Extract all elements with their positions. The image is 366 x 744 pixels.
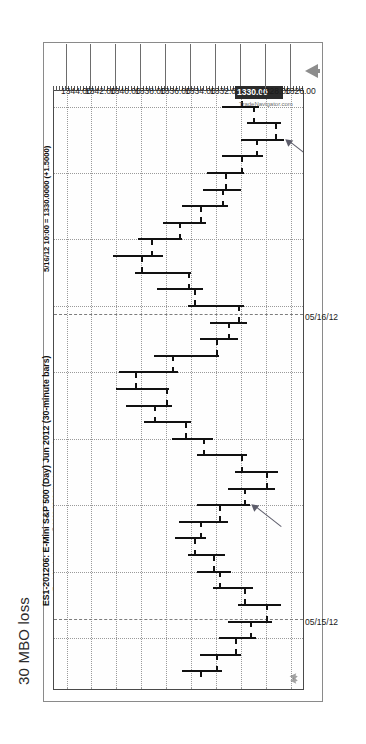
watermark: TradeNavigator.com xyxy=(239,101,293,107)
bar-close-tick xyxy=(244,599,246,604)
bar-open-tick xyxy=(266,473,268,478)
bar-close-tick xyxy=(200,217,202,222)
bar-open-tick xyxy=(244,489,246,494)
bar-close-tick xyxy=(241,467,243,472)
bar-close-tick xyxy=(275,134,277,139)
price-gridline xyxy=(91,91,92,689)
price-gridline xyxy=(116,91,117,689)
up-arrow-stem-icon xyxy=(315,69,320,73)
plot-area[interactable] xyxy=(53,90,304,690)
price-gridline xyxy=(266,91,267,689)
bar-range xyxy=(157,288,204,290)
price-axis: 1344.001342.001340.001338.001336.001334.… xyxy=(53,44,304,90)
bar-open-tick xyxy=(256,140,258,145)
bar-range xyxy=(172,438,213,440)
bar-close-tick xyxy=(266,483,268,488)
session-separator xyxy=(54,314,303,315)
chart-rotation-wrapper: ES1-201206: E-Mini S&P 500 (Day) Jun 201… xyxy=(43,42,323,702)
bar-close-tick xyxy=(256,151,258,156)
bar-range xyxy=(135,272,191,274)
bar-range xyxy=(188,305,244,307)
price-tick-label: 1326.00 xyxy=(285,86,329,97)
last-price-callout: 5/16/12 10:00 = 1330.0000 (+1.5000) xyxy=(42,146,51,272)
price-tick xyxy=(265,44,266,90)
bar-close-tick xyxy=(216,666,218,671)
bar-open-tick xyxy=(154,406,156,411)
bar-close-tick xyxy=(225,184,227,189)
bar-open-tick xyxy=(266,605,268,610)
bar-open-tick xyxy=(244,589,246,594)
time-gridline xyxy=(54,173,303,174)
bar-open-tick xyxy=(200,672,202,677)
bar-close-tick xyxy=(203,450,205,455)
bar-close-tick xyxy=(188,284,190,289)
chart-title: ES1-201206: E-Mini S&P 500 (Day) Jun 201… xyxy=(41,356,51,606)
bar-close-tick xyxy=(135,384,137,389)
arrow-shaft xyxy=(254,505,281,527)
bar-close-tick xyxy=(172,367,174,372)
bar-open-tick xyxy=(225,174,227,179)
price-tick xyxy=(240,44,241,90)
bar-range xyxy=(138,239,182,241)
bar-open-tick xyxy=(188,273,190,278)
bar-open-tick xyxy=(216,655,218,660)
date-tick-label: 05/15/12 xyxy=(305,617,338,627)
bar-open-tick xyxy=(135,373,137,378)
bar-close-tick xyxy=(194,300,196,305)
page-caption: 30 MBO loss xyxy=(15,555,39,685)
bar-open-tick xyxy=(200,522,202,527)
price-gridline xyxy=(216,91,217,689)
bar-open-tick xyxy=(250,622,252,627)
bar-open-tick xyxy=(228,323,230,328)
arrow-head xyxy=(283,136,293,147)
bar-range xyxy=(116,388,169,390)
bar-open-tick xyxy=(235,639,237,644)
price-gridline xyxy=(191,91,192,689)
bar-open-tick xyxy=(219,506,221,511)
bar-close-tick xyxy=(185,433,187,438)
bar-close-tick xyxy=(238,317,240,322)
price-tick xyxy=(290,44,291,90)
price-tick xyxy=(190,44,191,90)
price-gridline xyxy=(67,91,68,689)
bar-open-tick xyxy=(213,556,215,561)
bar-open-tick xyxy=(219,572,221,577)
bar-close-tick xyxy=(219,583,221,588)
time-gridline xyxy=(54,572,303,573)
eagle-logo-icon xyxy=(287,671,301,686)
time-gridline xyxy=(54,505,303,506)
bar-close-tick xyxy=(250,633,252,638)
bar-open-tick xyxy=(222,190,224,195)
bar-open-tick xyxy=(179,223,181,228)
bar-open-tick xyxy=(238,306,240,311)
screenshot-root: 30 MBO loss ES1-201206: E-Mini S&P 500 (… xyxy=(0,0,366,744)
time-gridline xyxy=(54,638,303,639)
bar-open-tick xyxy=(203,439,205,444)
bar-open-tick xyxy=(216,340,218,345)
bar-open-tick xyxy=(185,423,187,428)
bar-range xyxy=(197,504,250,506)
price-gridline xyxy=(291,91,292,689)
bar-range xyxy=(228,488,275,490)
bar-open-tick xyxy=(200,207,202,212)
price-tick xyxy=(115,44,116,90)
price-tick xyxy=(140,44,141,90)
price-gridline xyxy=(141,91,142,689)
bar-open-tick xyxy=(172,356,174,361)
bar-range xyxy=(200,338,237,340)
bar-close-tick xyxy=(179,234,181,239)
bar-close-tick xyxy=(235,649,237,654)
arrow-head xyxy=(249,502,259,513)
price-tick xyxy=(215,44,216,90)
bar-close-tick xyxy=(222,201,224,206)
bar-close-tick xyxy=(253,118,255,123)
bar-open-tick xyxy=(194,539,196,544)
bar-close-tick xyxy=(166,400,168,405)
bar-close-tick xyxy=(244,500,246,505)
price-tick xyxy=(90,44,91,90)
bar-open-tick xyxy=(241,456,243,461)
time-gridline xyxy=(54,306,303,307)
bar-close-tick xyxy=(219,516,221,521)
time-gridline xyxy=(54,372,303,373)
bar-close-tick xyxy=(141,267,143,272)
